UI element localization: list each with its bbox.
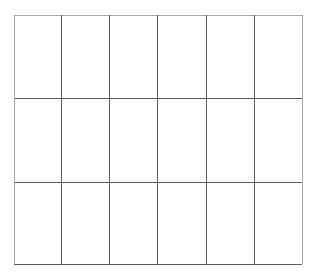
grid-table — [14, 15, 302, 264]
grid-col-divider — [206, 15, 207, 264]
grid-border-right — [302, 15, 303, 264]
grid-col-divider — [109, 15, 110, 264]
grid-row-divider — [14, 182, 302, 183]
grid-border-top — [14, 15, 302, 16]
grid-row-divider — [14, 98, 302, 99]
grid-col-divider — [157, 15, 158, 264]
grid-border-bottom — [14, 264, 302, 265]
grid-col-divider — [254, 15, 255, 264]
grid-border-left — [14, 15, 15, 264]
grid-col-divider — [61, 15, 62, 264]
